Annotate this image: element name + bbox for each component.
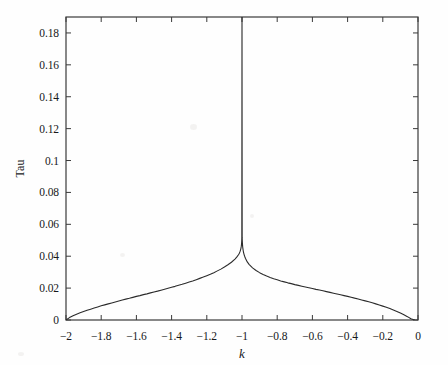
y-tick-label: 0.02 [39,282,59,294]
scan-speckle [120,253,125,257]
y-tick-label: 0 [53,314,59,326]
data-series-tau [66,17,414,320]
y-tick-label: 0.18 [39,27,59,39]
y-tick-label: 0.04 [39,250,59,262]
scan-speckle [18,352,24,356]
x-axis-title: k [239,346,245,362]
y-axis-title: Tau [13,159,28,177]
figure-container: 00.020.040.060.080.10.120.140.160.18 −2−… [0,0,448,365]
y-tick-label: 0.14 [39,91,59,103]
x-tick-label: −0.4 [337,330,357,342]
x-tick-label: −1 [236,330,248,342]
x-tick-label: −1.8 [91,330,111,342]
y-tick-label: 0.08 [39,186,59,198]
chart-plot [0,0,448,365]
scan-speckle [250,214,254,218]
y-tick-label: 0.06 [39,218,59,230]
x-tick-label: −0.8 [267,330,287,342]
x-tick-label: −0.2 [373,330,393,342]
x-tick-label: −2 [60,330,72,342]
x-tick-label: −0.6 [302,330,322,342]
x-tick-label: −1.2 [197,330,217,342]
scan-speckle [190,124,197,130]
y-tick-label: 0.16 [39,59,59,71]
x-tick-label: −1.4 [161,330,181,342]
x-tick-label: −1.6 [126,330,146,342]
y-tick-label: 0.12 [39,123,59,135]
y-tick-label: 0.1 [45,155,59,167]
x-tick-label: 0 [415,330,421,342]
